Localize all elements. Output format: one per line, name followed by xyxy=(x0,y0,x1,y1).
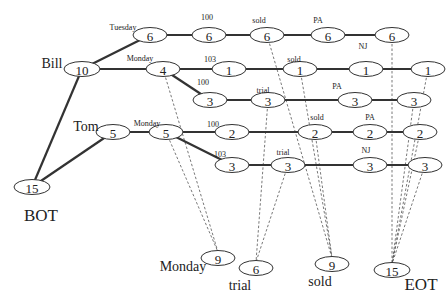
node-value: 15 xyxy=(386,264,399,279)
node-value: 1 xyxy=(297,63,304,78)
graph-node-t3d: 3 xyxy=(408,158,442,174)
edge-label: Monday xyxy=(127,54,154,63)
group-label: EOT xyxy=(404,275,438,294)
graph-node-t2a: 2 xyxy=(215,125,249,141)
graph-node-tom: 5 xyxy=(96,125,130,141)
node-value: 3 xyxy=(265,94,272,109)
graph-node-t2c: 2 xyxy=(353,125,387,141)
graph-node-bot: 15 xyxy=(14,180,50,196)
graph-node-bmon4: 4 xyxy=(146,62,180,78)
edge-label: sold xyxy=(252,16,265,25)
node-value: 6 xyxy=(206,29,213,44)
dashed-edge xyxy=(392,165,425,264)
graph-node-t3c: 3 xyxy=(353,158,387,174)
edge-label: 100 xyxy=(207,120,219,129)
graph-node-t6c: 6 xyxy=(311,28,345,44)
node-value: 2 xyxy=(367,126,374,141)
edge-label: PA xyxy=(313,16,323,25)
trajectory-graph-diagram: 151066666411113333552222333396915 Tuesda… xyxy=(0,0,447,297)
node-value: 4 xyxy=(160,63,167,78)
node-value: 3 xyxy=(367,159,374,174)
group-label: Bill xyxy=(41,56,62,71)
dashed-edge xyxy=(256,165,288,262)
graph-node-b1c: 1 xyxy=(349,62,383,78)
node-value: 5 xyxy=(110,126,117,141)
edge-label: PA xyxy=(365,113,375,122)
node-value: 6 xyxy=(325,29,332,44)
dashed-edge xyxy=(392,132,420,264)
node-value: 6 xyxy=(147,29,154,44)
edge-label: NJ xyxy=(359,42,368,51)
dashed-edge xyxy=(392,100,414,264)
node-value: 15 xyxy=(26,181,39,196)
node-value: 5 xyxy=(163,126,170,141)
node-value: 3 xyxy=(207,94,214,109)
group-label: Monday xyxy=(160,259,207,274)
node-value: 2 xyxy=(229,126,236,141)
edge-label: PA xyxy=(332,82,342,91)
node-value: 3 xyxy=(285,159,292,174)
node-value: 1 xyxy=(226,63,233,78)
group-label: BOT xyxy=(24,206,59,225)
edge-label: sold xyxy=(310,113,323,122)
graph-node-t3a: 3 xyxy=(215,158,249,174)
node-value: 3 xyxy=(229,159,236,174)
graph-node-bill: 10 xyxy=(64,62,100,78)
node-value: 10 xyxy=(76,63,89,78)
node-value: 6 xyxy=(264,29,271,44)
edge-label: NJ xyxy=(362,146,371,155)
graph-nodes: 151066666411113333552222333396915 xyxy=(14,28,445,279)
edge-label: Tuesday xyxy=(110,23,137,32)
edge-label: 100 xyxy=(201,13,213,22)
graph-node-t6d: 6 xyxy=(375,28,409,44)
node-value: 1 xyxy=(363,63,370,78)
graph-node-t6b: 6 xyxy=(250,28,284,44)
node-value: 3 xyxy=(422,159,429,174)
edge-label: trial xyxy=(277,148,291,157)
node-value: 6 xyxy=(389,29,396,44)
graph-node-t2b: 2 xyxy=(298,125,332,141)
group-label: trial xyxy=(229,278,252,293)
graph-node-b3c: 3 xyxy=(338,93,372,109)
dashed-edge xyxy=(166,132,218,252)
graph-node-b1d: 1 xyxy=(411,62,445,78)
node-value: 9 xyxy=(329,258,336,273)
node-value: 2 xyxy=(417,126,424,141)
graph-node-sold9: 9 xyxy=(315,257,349,273)
node-value: 3 xyxy=(411,94,418,109)
graph-node-b3a: 3 xyxy=(193,93,227,109)
edge-label: trial xyxy=(257,86,271,95)
graph-node-trial6: 6 xyxy=(239,261,273,277)
edge-label: sold xyxy=(287,55,300,64)
group-label: sold xyxy=(308,274,331,289)
dashed-edge xyxy=(256,100,268,262)
graph-node-b3d: 3 xyxy=(397,93,431,109)
edge-label: 100 xyxy=(197,78,209,87)
node-value: 9 xyxy=(215,252,222,267)
node-value: 2 xyxy=(312,126,319,141)
edge-label: 103 xyxy=(204,55,216,64)
graph-node-t3b: 3 xyxy=(271,158,305,174)
dashed-edge xyxy=(315,132,332,258)
graph-labels: Tuesday100soldPANJMonday103sold100trialP… xyxy=(24,13,438,294)
edge-label: 103 xyxy=(214,150,226,159)
node-value: 3 xyxy=(352,94,359,109)
node-value: 1 xyxy=(425,63,432,78)
graph-node-b1a: 1 xyxy=(212,62,246,78)
graph-node-t6a: 6 xyxy=(192,28,226,44)
graph-node-t2d: 2 xyxy=(403,125,437,141)
edge-label: Monday xyxy=(134,119,161,128)
group-label: Tom xyxy=(73,119,99,134)
node-value: 6 xyxy=(253,262,260,277)
